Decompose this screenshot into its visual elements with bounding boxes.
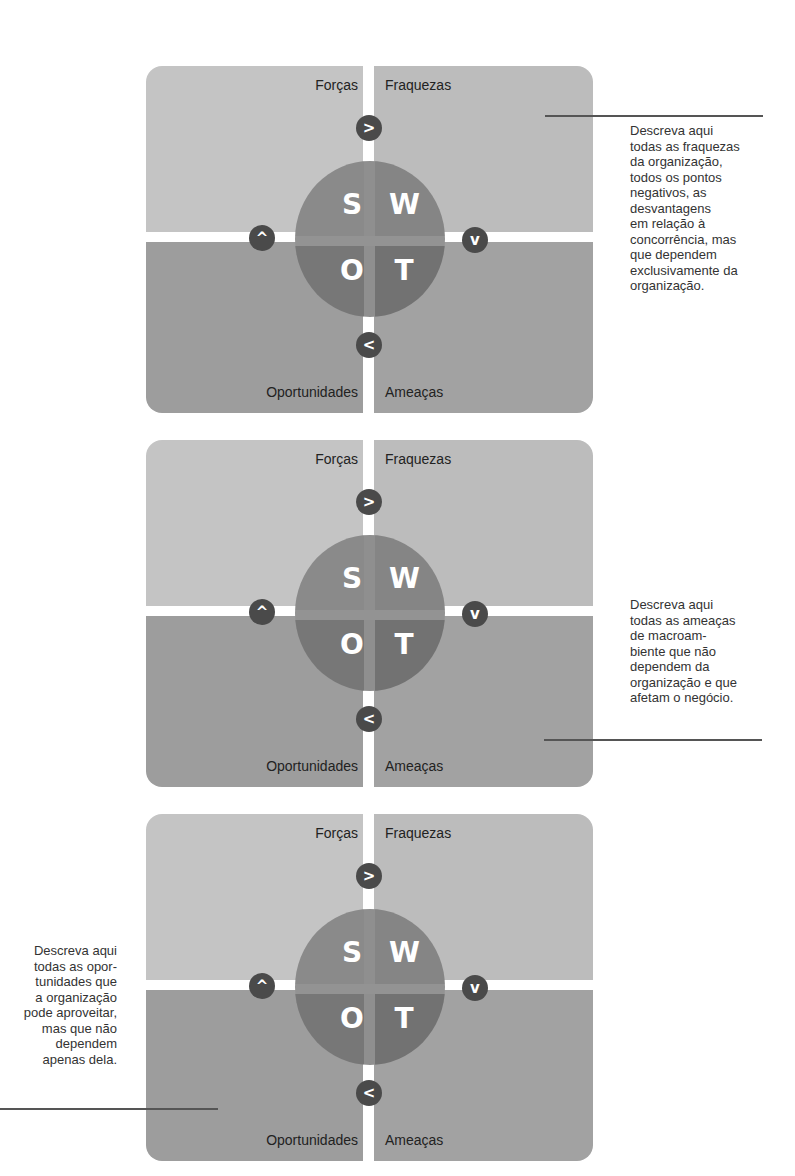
callout-line: todas as ameaças [630,613,795,629]
callout-line: biente que não [630,644,795,660]
callout-line: Descreva aqui [0,943,117,959]
callout-leader-line-opportunities [0,1108,218,1110]
letter-s: S [337,188,367,221]
label-weaknesses: Fraquezas [385,451,451,467]
label-threats: Ameaças [385,1132,443,1148]
callout-leader-line-weaknesses [545,115,763,117]
circle-divider-horizontal [295,610,445,620]
circle-divider-horizontal [295,236,445,246]
swot-diagram-weaknesses: Forças Fraquezas Oportunidades Ameaças S… [146,66,593,413]
swot-diagram-threats: Forças Fraquezas Oportunidades Ameaças S… [146,440,593,787]
letter-o: O [337,1002,367,1035]
callout-line: em relação à [630,216,795,232]
letter-o: O [337,254,367,287]
callout-line: Descreva aqui [630,597,795,613]
letter-t: T [389,628,419,661]
label-weaknesses: Fraquezas [385,77,451,93]
label-opportunities: Oportunidades [266,758,358,774]
letter-t: T [389,1002,419,1035]
letter-w: W [389,562,419,595]
callout-line: todas as fraquezas [630,139,795,155]
letter-s: S [337,562,367,595]
letter-s: S [337,936,367,969]
callout-line: organização. [630,278,795,294]
swot-center-circle: S W O T [295,909,445,1065]
arrow-right-icon: > [356,489,382,515]
callout-line: apenas dela. [0,1052,117,1068]
label-weaknesses: Fraquezas [385,825,451,841]
arrow-up-icon: ^ [249,973,275,999]
callout-line: todas as opor- [0,959,117,975]
arrow-down-icon: v [462,227,488,253]
letter-w: W [389,936,419,969]
arrow-left-icon: < [356,706,382,732]
callout-leader-line-threats [544,739,762,741]
callout-line: pode aproveitar, [0,1005,117,1021]
callout-weaknesses: Descreva aqui todas as fraquezas da orga… [630,123,795,294]
letter-w: W [389,188,419,221]
callout-line: mas que não [0,1021,117,1037]
callout-line: negativos, as [630,185,795,201]
arrow-down-icon: v [462,975,488,1001]
letter-t: T [389,254,419,287]
arrow-down-icon: v [462,601,488,627]
callout-line: que dependem [630,247,795,263]
callout-line: da organização, [630,154,795,170]
callout-line: afetam o negócio. [630,690,795,706]
label-threats: Ameaças [385,384,443,400]
arrow-right-icon: > [356,863,382,889]
label-opportunities: Oportunidades [266,1132,358,1148]
callout-line: concorrência, mas [630,232,795,248]
arrow-up-icon: ^ [249,225,275,251]
label-strengths: Forças [315,825,358,841]
callout-opportunities: Descreva aqui todas as opor- tunidades q… [0,943,117,1067]
letter-o: O [337,628,367,661]
callout-line: Descreva aqui [630,123,795,139]
callout-line: desvantagens [630,201,795,217]
callout-line: dependem [0,1036,117,1052]
swot-center-circle: S W O T [295,535,445,691]
callout-line: dependem da [630,659,795,675]
label-threats: Ameaças [385,758,443,774]
callout-line: de macroam- [630,628,795,644]
label-opportunities: Oportunidades [266,384,358,400]
label-strengths: Forças [315,77,358,93]
circle-divider-horizontal [295,984,445,994]
label-strengths: Forças [315,451,358,467]
callout-line: tunidades que [0,974,117,990]
arrow-up-icon: ^ [249,599,275,625]
arrow-left-icon: < [356,1080,382,1106]
swot-center-circle: S W O T [295,161,445,317]
callout-line: organização e que [630,675,795,691]
callout-threats: Descreva aqui todas as ameaças de macroa… [630,597,795,706]
callout-line: a organização [0,990,117,1006]
arrow-right-icon: > [356,115,382,141]
arrow-left-icon: < [356,332,382,358]
callout-line: exclusivamente da [630,263,795,279]
callout-line: todos os pontos [630,170,795,186]
